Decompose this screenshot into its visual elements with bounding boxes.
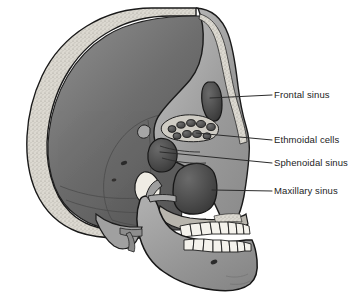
ethmoid-cell bbox=[196, 120, 205, 127]
label-frontal-sinus: Frontal sinus bbox=[274, 90, 330, 100]
sphenoidal-sinus-cavity bbox=[148, 138, 177, 172]
tooth-lower bbox=[184, 239, 194, 250]
ethmoid-cell bbox=[193, 131, 202, 138]
skull-sagittal-illustration bbox=[0, 0, 359, 307]
label-maxillary-sinus: Maxillary sinus bbox=[274, 186, 338, 196]
label-sphenoidal-sinus: Sphenoidal sinus bbox=[274, 158, 348, 168]
tooth-upper bbox=[243, 224, 250, 234]
tooth-lower bbox=[244, 242, 251, 251]
ethmoid-cell bbox=[207, 123, 216, 130]
tooth-lower bbox=[213, 240, 222, 252]
tooth-lower bbox=[193, 239, 204, 251]
sella-turcica bbox=[138, 125, 150, 138]
sinus-anatomy-figure: Frontal sinus Ethmoidal cells Sphenoidal… bbox=[0, 0, 359, 307]
tooth-lower bbox=[203, 239, 213, 252]
ethmoid-cell bbox=[173, 133, 181, 140]
ethmoid-cell bbox=[168, 126, 176, 133]
maxillary-sinus-cavity bbox=[173, 163, 217, 214]
ethmoid-cell bbox=[183, 131, 192, 138]
upper-teeth bbox=[180, 222, 250, 237]
ethmoidal-air-cells bbox=[161, 115, 218, 142]
ethmoid-cell bbox=[177, 122, 185, 128]
tooth-upper bbox=[219, 222, 229, 234]
ethmoid-cell bbox=[187, 120, 196, 127]
tooth-lower bbox=[229, 241, 238, 252]
label-ethmoidal-cells: Ethmoidal cells bbox=[274, 135, 339, 145]
maxillary-sinus bbox=[173, 163, 217, 214]
